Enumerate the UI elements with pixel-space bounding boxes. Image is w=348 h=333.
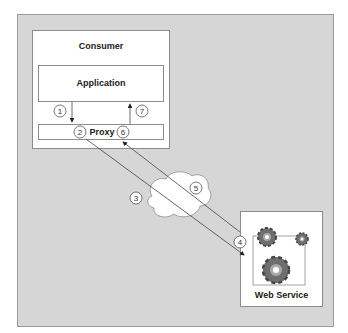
svg-text:2: 2: [78, 128, 83, 137]
step-5: 5: [190, 182, 202, 194]
svg-text:5: 5: [194, 184, 199, 193]
svg-text:6: 6: [121, 128, 126, 137]
gear-icon-small: [296, 233, 308, 245]
step-7: 7: [136, 105, 148, 117]
step-2: 2: [74, 126, 86, 138]
arrow-response: [123, 142, 240, 232]
step-3: 3: [130, 192, 142, 204]
arrow-request: [86, 139, 244, 255]
step-6: 6: [117, 126, 129, 138]
gear-icon-large-bottom: [263, 257, 289, 283]
svg-text:4: 4: [238, 238, 243, 247]
gear-icon-large-top: [258, 228, 276, 246]
svg-text:3: 3: [134, 194, 139, 203]
svg-text:1: 1: [58, 107, 63, 116]
svg-text:7: 7: [140, 107, 145, 116]
step-4: 4: [234, 236, 246, 248]
diagram-graphics: 1 2 3 4 5 6 7: [0, 0, 348, 333]
step-1: 1: [54, 105, 66, 117]
cloud-icon: [148, 172, 211, 217]
